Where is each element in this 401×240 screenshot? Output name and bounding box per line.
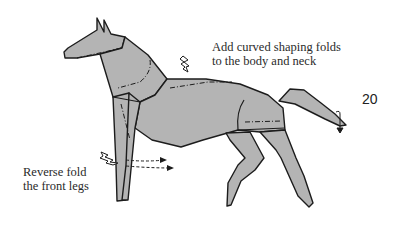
rear-leg-right [260, 130, 313, 207]
push-arrow-icon [180, 56, 189, 72]
instruction-line: Add curved shaping folds [212, 40, 341, 54]
instruction-front-legs: Reverse fold the front legs [23, 165, 89, 193]
rear-leg-left [226, 132, 264, 206]
horse-tail [279, 89, 346, 126]
instruction-body-neck: Add curved shaping folds to the body and… [212, 40, 341, 68]
step-number: 20 [362, 91, 378, 107]
instruction-line: Reverse fold [23, 165, 89, 179]
instruction-line: the front legs [23, 179, 89, 193]
instruction-line: to the body and neck [212, 54, 341, 68]
